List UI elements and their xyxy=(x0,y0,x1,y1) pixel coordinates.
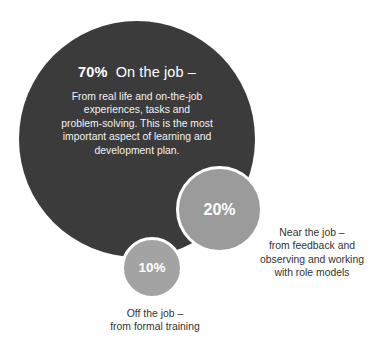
on-the-job-description-line-2: experiences, tasks and xyxy=(36,103,238,116)
on-the-job-heading: 70% On the job – xyxy=(36,63,238,81)
off-the-job-caption-line-1: Off the job – xyxy=(85,307,225,320)
on-the-job-description-line-3: problem-solving. This is the most xyxy=(36,117,238,130)
off-the-job-caption: Off the job – from formal training xyxy=(85,307,225,334)
on-the-job-description-line-4: important aspect of learning and xyxy=(36,130,238,143)
learning-model-infographic: 70% On the job – From real life and on-t… xyxy=(0,0,375,344)
bubble-off-the-job: 10% xyxy=(121,237,183,299)
off-the-job-caption-line-2: from formal training xyxy=(85,320,225,333)
on-the-job-description-line-5: development plan. xyxy=(36,144,238,157)
bubble-near-the-job: 20% xyxy=(176,166,263,253)
on-the-job-content: 70% On the job – From real life and on-t… xyxy=(36,63,238,157)
near-the-job-caption-line-2: from feedback and xyxy=(253,239,371,252)
on-the-job-label: On the job – xyxy=(116,64,196,80)
near-the-job-caption: Near the job – from feedback and observi… xyxy=(253,226,371,280)
near-the-job-percent: 20% xyxy=(179,202,260,218)
on-the-job-description: From real life and on-the-job experience… xyxy=(36,90,238,157)
near-the-job-caption-line-1: Near the job – xyxy=(253,226,371,239)
on-the-job-description-line-1: From real life and on-the-job xyxy=(36,90,238,103)
off-the-job-percent: 10% xyxy=(124,261,180,275)
near-the-job-caption-line-3: observing and working xyxy=(253,253,371,266)
on-the-job-percent: 70% xyxy=(78,64,107,80)
near-the-job-caption-line-4: with role models xyxy=(253,266,371,279)
